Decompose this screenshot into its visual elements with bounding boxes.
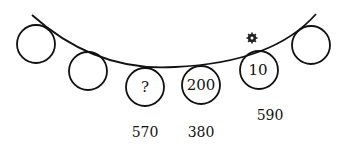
circle-2 — [69, 52, 107, 90]
label-380: 380 — [188, 124, 215, 140]
circle-5: 10 — [240, 51, 278, 89]
hanging-string-curve — [32, 14, 316, 67]
label-590: 590 — [257, 107, 284, 123]
label-570: 570 — [132, 124, 159, 140]
circle-4: 200 — [182, 66, 220, 104]
circle-6 — [292, 26, 330, 64]
gear-star-icon — [247, 33, 258, 44]
circle-5-value: 10 — [248, 61, 267, 79]
circle-4-value: 200 — [187, 76, 216, 94]
circle-puzzle-diagram: ? 200 10 570 380 590 — [0, 0, 351, 144]
circle-3-unknown: ? — [126, 68, 164, 106]
circle-3-value: ? — [141, 78, 149, 96]
circle-1 — [17, 25, 55, 63]
